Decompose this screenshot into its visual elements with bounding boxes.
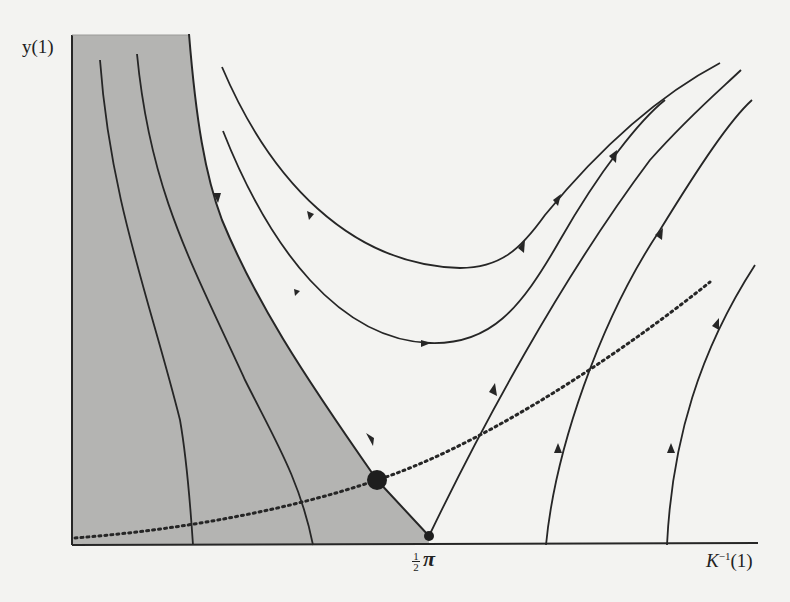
fixed-point-small [424, 531, 434, 541]
arrow-up-icon [554, 443, 562, 453]
arrow-up-icon [489, 383, 497, 396]
flow-diagram [0, 0, 790, 602]
pi-symbol: π [423, 546, 435, 571]
shaded-region [72, 35, 429, 545]
fixed-point-large [367, 470, 387, 490]
flow-curve [429, 70, 741, 536]
x-axis-label: K−1(1) [706, 550, 753, 572]
flow-curve [546, 100, 752, 545]
x-axis-label-arg: (1) [730, 550, 752, 571]
arrow-up-icon [667, 443, 675, 453]
arrow-up-icon [712, 318, 719, 330]
x-axis-label-sup: −1 [719, 550, 731, 562]
y-axis-label: y(1) [22, 36, 54, 58]
arrow-right-icon [421, 340, 431, 347]
x-axis-label-base: K [706, 550, 719, 571]
fraction: 1 2 [412, 551, 420, 572]
arrow-down-icon [366, 433, 374, 446]
flow-curve [667, 265, 755, 545]
x-tick-half-pi: 1 2 π [412, 546, 435, 572]
arrow-right-icon [294, 289, 300, 296]
fraction-denominator: 2 [413, 562, 419, 572]
fraction-numerator: 1 [413, 551, 419, 561]
arrow-up-icon [655, 228, 663, 240]
arrow-right-icon [307, 211, 314, 220]
flow-curve [223, 100, 665, 343]
